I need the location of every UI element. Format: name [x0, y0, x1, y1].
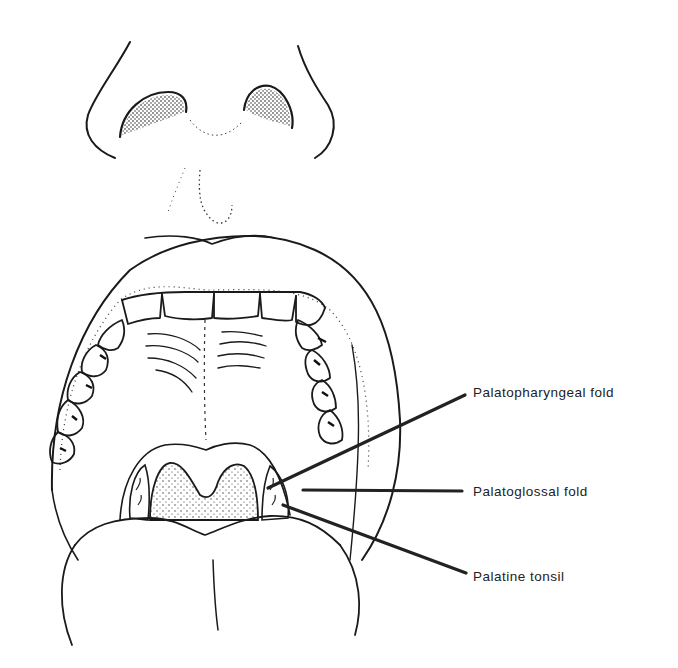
right-cheek-line — [350, 345, 359, 560]
label-palatopharyngeal-fold: Palatopharyngeal fold — [473, 385, 614, 400]
left-molars — [50, 320, 124, 464]
palatine-raphe — [204, 320, 206, 440]
upper-teeth — [122, 292, 325, 325]
mouth-illustration — [0, 0, 678, 668]
leader-palatoglossal — [303, 490, 462, 491]
right-molars — [296, 320, 343, 443]
label-palatine-tonsil: Palatine tonsil — [473, 569, 565, 584]
leader-palatopharyngeal — [268, 395, 465, 488]
leader-palatine-tonsil — [283, 505, 466, 573]
tongue — [62, 516, 359, 645]
nose — [87, 42, 334, 223]
palatal-rugae — [146, 320, 266, 440]
left-nostril — [122, 95, 184, 135]
label-palatoglossal-fold: Palatoglossal fold — [473, 484, 588, 499]
soft-palate — [120, 443, 290, 520]
leader-lines — [268, 395, 466, 573]
uvula-and-pharynx — [150, 463, 258, 520]
anatomical-diagram: Palatopharyngeal fold Palatoglossal fold… — [0, 0, 678, 668]
